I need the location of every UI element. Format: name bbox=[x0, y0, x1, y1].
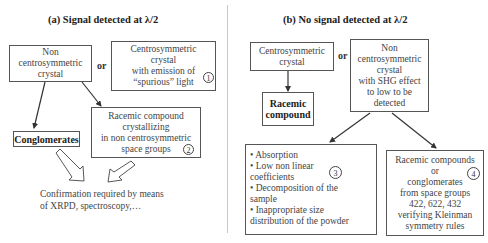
arrow-to-racemic-a bbox=[82, 82, 101, 106]
arrow-to-conglomerates bbox=[34, 82, 45, 128]
arrows-layer bbox=[0, 0, 488, 243]
hollow-arrow-left bbox=[56, 149, 84, 181]
arrow-to-kleinman bbox=[392, 113, 436, 148]
arrow-to-reasons bbox=[330, 113, 370, 142]
hollow-arrow-right bbox=[108, 161, 135, 182]
